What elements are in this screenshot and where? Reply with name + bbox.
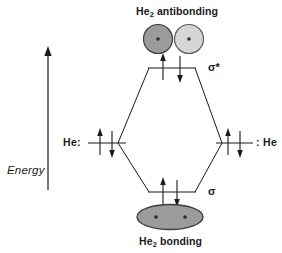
bonding-nucleus-dot-left	[154, 215, 158, 219]
bonding-lobe	[137, 205, 203, 230]
energy-axis	[44, 46, 51, 190]
he-left-label: He:	[63, 137, 81, 148]
bonding-title: He2 bonding	[139, 236, 202, 248]
electron-arrow-down-he-right	[237, 131, 243, 158]
antibonding-nucleus-dot-right	[187, 37, 190, 40]
electron-arrow-down-sigma-star	[177, 56, 183, 83]
mo-diagram-canvas	[0, 0, 282, 253]
level-he-left	[88, 128, 126, 158]
he-right-label: : He	[256, 137, 277, 148]
bonding-title-he: He	[139, 235, 153, 247]
bonding-nucleus-dot-right	[183, 215, 187, 219]
electron-arrow-down-he-left	[109, 131, 115, 158]
antibonding-title-word: antibonding	[154, 5, 218, 17]
level-he-right	[216, 128, 253, 158]
antibonding-nucleus-dot-left	[156, 37, 159, 40]
energy-axis-label: Energy	[7, 165, 45, 177]
line-left-to-sigma-star	[118, 68, 149, 143]
sigma-star-label: σ*	[208, 62, 220, 73]
line-left-to-sigma	[118, 143, 149, 192]
level-sigma	[148, 177, 196, 207]
level-sigma-star	[148, 53, 196, 83]
electron-arrow-up-sigma	[160, 177, 166, 204]
electron-arrow-up-he-left	[97, 128, 103, 155]
line-right-to-sigma-star	[195, 68, 222, 143]
correlation-lines	[118, 68, 222, 192]
bonding-title-word: bonding	[157, 235, 202, 247]
antibonding-title: He2 antibonding	[136, 6, 218, 18]
bonding-orbital-shape	[137, 205, 203, 230]
electron-arrow-up-sigma-star	[160, 53, 166, 80]
antibonding-title-he: He	[136, 5, 150, 17]
antibonding-orbital-shape	[144, 25, 204, 54]
electron-arrow-down-sigma	[174, 180, 180, 207]
sigma-label: σ	[208, 186, 216, 197]
energy-axis-arrowhead	[44, 46, 51, 56]
mo-diagram: He2 antibonding He2 bonding He: : He σ* …	[0, 0, 282, 253]
electron-arrow-up-he-right	[225, 128, 231, 155]
